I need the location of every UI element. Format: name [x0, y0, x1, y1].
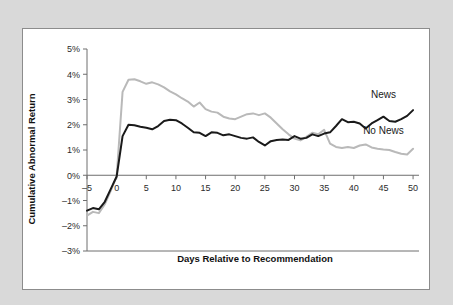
series-label-no-news: No News — [363, 125, 404, 136]
x-tick-label: 5 — [144, 183, 149, 193]
y-tick-label: –1% — [62, 196, 80, 206]
series-line-no-news — [87, 79, 413, 215]
x-axis-title: Days Relative to Recommendation — [177, 253, 333, 264]
x-tick-label: –5 — [82, 183, 92, 193]
y-tick-label: 3% — [67, 95, 80, 105]
x-tick-label: 10 — [171, 183, 181, 193]
y-axis-title: Cumulative Abnormal Return — [26, 93, 37, 224]
x-tick-label: 15 — [201, 183, 211, 193]
x-tick-label: 20 — [230, 183, 240, 193]
x-tick-label: 40 — [349, 183, 359, 193]
y-axis: 5%4%3%2%1%0%–1%–2%–3% — [62, 44, 87, 256]
y-tick-label: 1% — [67, 145, 80, 155]
series-labels: NewsNo News — [363, 89, 404, 136]
y-tick-label: 0% — [67, 171, 80, 181]
y-tick-label: –3% — [62, 246, 80, 256]
chart-panel: 5%4%3%2%1%0%–1%–2%–3% –50510152025303540… — [22, 28, 430, 290]
series-lines — [87, 79, 413, 215]
x-tick-label: 50 — [408, 183, 418, 193]
cumulative-abnormal-return-chart: 5%4%3%2%1%0%–1%–2%–3% –50510152025303540… — [23, 29, 429, 289]
series-label-news: News — [371, 89, 396, 100]
y-tick-label: 2% — [67, 120, 80, 130]
x-tick-label: 25 — [260, 183, 270, 193]
x-tick-label: 30 — [289, 183, 299, 193]
x-tick-label: 35 — [319, 183, 329, 193]
y-tick-label: 4% — [67, 70, 80, 80]
x-tick-label: 0 — [114, 183, 119, 193]
x-tick-label: 45 — [378, 183, 388, 193]
y-tick-label: –2% — [62, 221, 80, 231]
x-axis: –505101520253035404550 — [82, 175, 419, 251]
y-tick-label: 5% — [67, 44, 80, 54]
